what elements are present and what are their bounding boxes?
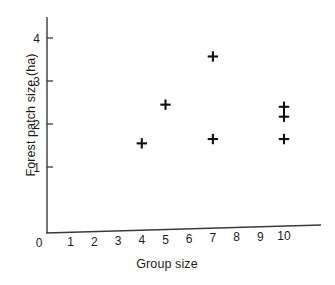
data-point-marker [279,111,289,121]
y-tick-marks [47,38,53,167]
data-point-marker [208,134,218,144]
x-tick-label: 8 [233,230,240,244]
x-tick-label: 5 [162,233,169,247]
x-tick-label: 7 [210,231,217,245]
plot-area: 1234 012345678910 [0,0,335,285]
data-point-marker [137,138,147,148]
axis-lines [46,17,321,233]
data-point-marker [279,134,289,144]
x-tick-label: 4 [138,233,145,247]
x-tick-label: 9 [257,230,264,244]
data-point-marker [208,51,218,61]
y-tick-label: 3 [33,75,40,89]
scatter-chart: Forest patch size (ha) Group size 1234 0… [0,0,335,285]
data-point-marker [279,102,289,112]
x-tick-label: 10 [277,229,291,243]
x-tick-label: 0 [36,236,43,250]
x-tick-label: 2 [91,235,98,249]
x-tick-label: 1 [67,235,74,249]
data-points [137,51,290,148]
y-tick-label: 2 [33,118,40,132]
y-tick-labels: 1234 [33,32,40,175]
y-tick-label: 4 [33,32,40,46]
data-point-marker [160,99,170,109]
x-tick-label: 3 [115,234,122,248]
x-tick-label: 6 [186,232,193,246]
y-tick-label: 1 [33,161,40,175]
